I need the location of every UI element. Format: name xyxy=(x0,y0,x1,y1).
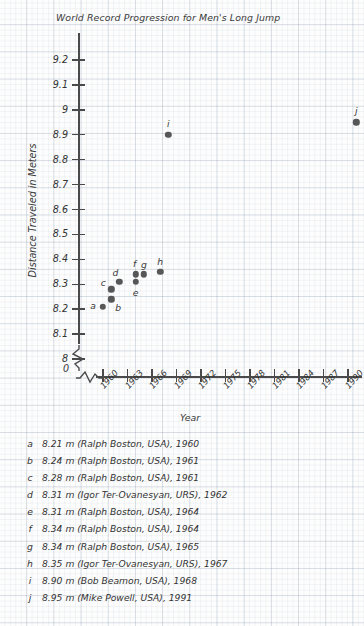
chart-title: World Record Progression for Men's Long … xyxy=(56,12,356,23)
y-axis-tick xyxy=(72,134,85,135)
legend-key: a xyxy=(24,438,36,449)
y-axis-tick xyxy=(72,259,85,260)
y-axis-tick-label: 8.2 xyxy=(28,303,68,314)
legend-text: 8.34 m (Ralph Boston, USA), 1964 xyxy=(42,523,199,534)
legend-row: c8.28 m (Ralph Boston, USA), 1961 xyxy=(0,472,364,489)
x-axis-tick-label: 1972 xyxy=(196,368,218,391)
y-axis-tick-label: 8.9 xyxy=(28,129,68,140)
legend-text: 8.28 m (Ralph Boston, USA), 1961 xyxy=(42,472,199,483)
legend-key: j xyxy=(24,592,36,603)
y-axis-tick xyxy=(72,209,85,210)
legend-key: g xyxy=(24,541,36,552)
data-point-label-d: d xyxy=(112,266,118,277)
legend-key: e xyxy=(24,506,36,517)
legend-text: 8.24 m (Ralph Boston, USA), 1961 xyxy=(42,455,199,466)
y-axis-tick-label: 8.7 xyxy=(28,179,68,190)
y-axis-tick-label: 9.2 xyxy=(28,54,68,65)
legend-row: j8.95 m (Mike Powell, USA), 1991 xyxy=(0,592,364,609)
y-axis-tick-label: 9.1 xyxy=(28,79,68,90)
y-axis-tick xyxy=(72,308,85,309)
legend-key: c xyxy=(24,472,36,483)
legend-row: h8.35 m (Igor Ter-Ovanesyan, URS), 1967 xyxy=(0,558,364,575)
legend-key: d xyxy=(24,489,36,500)
data-point-j xyxy=(353,119,359,125)
data-point-i xyxy=(165,132,171,138)
chart-legend: a8.21 m (Ralph Boston, USA), 1960b8.24 m… xyxy=(0,438,364,609)
y-axis-line xyxy=(78,33,80,344)
y-axis-tick-label: 9 xyxy=(28,104,68,115)
y-axis-tick-label: 8.5 xyxy=(28,228,68,239)
y-axis-tick-label: 8.4 xyxy=(28,253,68,264)
legend-text: 8.35 m (Igor Ter-Ovanesyan, URS), 1967 xyxy=(42,558,227,569)
x-axis-tick-label: 1969 xyxy=(172,368,194,391)
data-point-label-f: f xyxy=(133,258,136,269)
data-point-e xyxy=(132,279,138,285)
data-point-label-c: c xyxy=(101,277,106,288)
x-axis-tick-label: 1975 xyxy=(221,368,243,391)
scatter-chart: World Record Progression for Men's Long … xyxy=(0,0,364,430)
y-axis-tick xyxy=(72,284,85,285)
y-axis-tick xyxy=(72,59,85,60)
data-point-g xyxy=(141,271,147,277)
data-point-label-e: e xyxy=(133,286,139,297)
legend-row: f8.34 m (Ralph Boston, USA), 1964 xyxy=(0,523,364,540)
data-point-a xyxy=(100,303,106,309)
data-point-label-h: h xyxy=(157,255,163,266)
x-axis-tick-label: 1963 xyxy=(123,368,145,391)
legend-row: a8.21 m (Ralph Boston, USA), 1960 xyxy=(0,438,364,455)
legend-text: 8.31 m (Ralph Boston, USA), 1964 xyxy=(42,506,199,517)
y-axis-tick xyxy=(72,234,85,235)
x-axis-tick-label: 1984 xyxy=(294,368,316,391)
x-axis-tick-label: 1981 xyxy=(270,368,292,391)
legend-row: d8.31 m (Igor Ter-Ovanesyan, URS), 1962 xyxy=(0,489,364,506)
x-axis-tick-label: 1987 xyxy=(319,368,341,391)
legend-row: e8.31 m (Ralph Boston, USA), 1964 xyxy=(0,506,364,523)
y-axis-tick-label: 8.6 xyxy=(28,204,68,215)
y-axis-tick xyxy=(72,184,85,185)
data-point-label-b: b xyxy=(115,302,121,313)
y-axis-tick xyxy=(72,159,85,160)
data-point-label-g: g xyxy=(141,259,147,270)
data-point-h xyxy=(157,269,163,275)
legend-key: h xyxy=(24,558,36,569)
legend-text: 8.31 m (Igor Ter-Ovanesyan, URS), 1962 xyxy=(42,489,227,500)
legend-row: i8.90 m (Bob Beamon, USA), 1968 xyxy=(0,575,364,592)
data-point-f xyxy=(132,271,138,277)
y-axis-tick xyxy=(72,333,85,334)
y-axis-tick-label: 8.8 xyxy=(28,154,68,165)
legend-key: f xyxy=(24,523,36,534)
legend-text: 8.95 m (Mike Powell, USA), 1991 xyxy=(42,592,192,603)
x-axis-tick-label: 1990 xyxy=(343,368,364,391)
legend-text: 8.90 m (Bob Beamon, USA), 1968 xyxy=(42,575,197,586)
x-axis-title: Year xyxy=(180,412,200,423)
legend-text: 8.21 m (Ralph Boston, USA), 1960 xyxy=(42,438,199,449)
x-axis-tick-label: 1966 xyxy=(147,368,169,391)
y-axis-tick-label: 8.3 xyxy=(28,278,68,289)
data-point-label-j: j xyxy=(355,105,358,116)
data-point-d xyxy=(116,279,122,285)
y-axis-tick-label: 8.1 xyxy=(28,328,68,339)
y-axis-tick xyxy=(72,358,85,359)
data-point-label-a: a xyxy=(90,299,96,310)
y-axis-tick xyxy=(72,109,85,110)
legend-key: b xyxy=(24,455,36,466)
y-axis-tick xyxy=(72,84,85,85)
legend-row: b8.24 m (Ralph Boston, USA), 1961 xyxy=(0,455,364,472)
legend-row: g8.34 m (Ralph Boston, USA), 1965 xyxy=(0,541,364,558)
data-point-label-i: i xyxy=(167,117,170,128)
data-point-b xyxy=(108,296,114,302)
y-axis-tick-label: 8 xyxy=(28,353,68,364)
legend-text: 8.34 m (Ralph Boston, USA), 1965 xyxy=(42,541,199,552)
data-point-c xyxy=(108,286,114,292)
legend-key: i xyxy=(24,575,36,586)
x-axis-tick-label: 1978 xyxy=(245,368,267,391)
